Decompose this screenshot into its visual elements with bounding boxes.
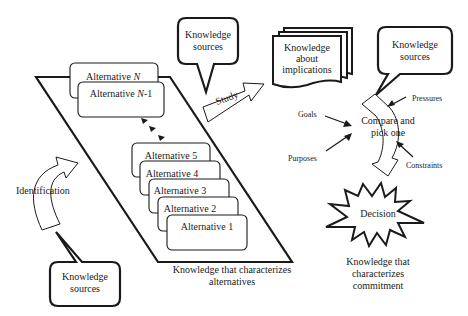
alternatives-caption-line2: alternatives bbox=[209, 276, 255, 287]
alternatives-caption-line1: Knowledge that characterizes bbox=[173, 264, 291, 275]
knowledge-sources-right-line2: sources bbox=[400, 51, 430, 62]
knowledge-sources-bottom-line1: Knowledge bbox=[62, 271, 109, 282]
pressures-label: Pressures bbox=[412, 94, 442, 103]
knowledge-sources-bubble-top: Knowledge sources bbox=[178, 18, 238, 92]
alternative-n-prefix: Alternative bbox=[86, 71, 133, 82]
knowledge-sources-bottom-line2: sources bbox=[70, 283, 100, 294]
ellipsis-triangles bbox=[141, 118, 165, 141]
knowledge-sources-right-line1: Knowledge bbox=[392, 39, 439, 50]
svg-text:Alternative 1: Alternative 1 bbox=[181, 221, 233, 232]
knowledge-sources-top-line2: sources bbox=[193, 41, 223, 52]
alternative-card-1: Alternative 1 bbox=[167, 215, 247, 250]
decision-label: Decision bbox=[360, 208, 396, 219]
alternative-n1-prefix: Alternative bbox=[90, 88, 137, 99]
purposes-label: Purposes bbox=[288, 154, 317, 163]
decision-starburst: Decision bbox=[326, 183, 424, 246]
commitment-caption-line1: Knowledge that bbox=[346, 256, 410, 267]
alternative-n-italic: N bbox=[132, 71, 141, 82]
study-arrow: Study bbox=[203, 83, 264, 122]
constraints-label: Constraints bbox=[406, 161, 442, 170]
compare-label-line2: pick one bbox=[371, 127, 406, 138]
alternative-card-n-minus-1: Alternative N-1 bbox=[78, 82, 164, 117]
knowledge-sources-top-line1: Knowledge bbox=[185, 29, 232, 40]
commitment-caption-line3: commitment bbox=[353, 280, 404, 291]
decision-process-diagram: Knowledge sources Alternative N Alternat… bbox=[0, 0, 468, 316]
identification-label: Identification bbox=[16, 185, 70, 196]
knowledge-implications-line3: implications bbox=[282, 64, 332, 75]
svg-text:Alternative N-1: Alternative N-1 bbox=[90, 88, 153, 99]
knowledge-sources-bubble-bottom: Knowledge sources bbox=[50, 232, 120, 306]
svg-text:Alternative 4: Alternative 4 bbox=[146, 168, 198, 179]
svg-text:Alternative 3: Alternative 3 bbox=[154, 185, 206, 196]
compare-label-line1: Compare and bbox=[361, 115, 415, 126]
alternative-n1-tail: -1 bbox=[144, 88, 152, 99]
commitment-caption-line2: characterizes bbox=[352, 268, 404, 279]
knowledge-implications-line2: about bbox=[296, 53, 318, 64]
svg-text:Alternative N: Alternative N bbox=[86, 71, 141, 82]
goals-label: Goals bbox=[298, 110, 317, 119]
identification-arrow: Identification bbox=[16, 157, 78, 230]
svg-text:Alternative 2: Alternative 2 bbox=[164, 203, 216, 214]
knowledge-implications-documents: Knowledge about implications bbox=[273, 28, 352, 87]
knowledge-sources-bubble-right: Knowledge sources bbox=[376, 27, 452, 95]
svg-text:Alternative 5: Alternative 5 bbox=[145, 150, 197, 161]
knowledge-implications-line1: Knowledge bbox=[284, 42, 331, 53]
